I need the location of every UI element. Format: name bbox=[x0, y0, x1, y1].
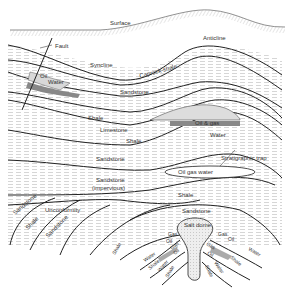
label-gas-r: Gas bbox=[218, 231, 228, 237]
label-oil-r2: Oil bbox=[207, 250, 215, 258]
label-surface: Surface bbox=[110, 20, 131, 26]
label-anticline: Anticline bbox=[203, 35, 226, 41]
label-shale-r2: Shale bbox=[204, 264, 215, 278]
geological-cross-section: Surface bbox=[0, 0, 286, 289]
label-water: Water bbox=[48, 79, 64, 85]
label-sandstone-upper: Sandstone bbox=[120, 89, 149, 95]
label-stratigraphic-trap: Stratigraphic trap bbox=[221, 155, 267, 161]
label-water-2: Water bbox=[210, 132, 226, 138]
label-oil-gas: Oil & gas bbox=[195, 120, 219, 126]
label-sandstone-dome: Sandstone bbox=[182, 208, 211, 214]
label-fault: Fault bbox=[55, 43, 69, 49]
surface-layer: Surface bbox=[10, 10, 285, 36]
label-gas-l: Gas bbox=[168, 231, 178, 237]
label-unconformity: Unconformity bbox=[45, 207, 80, 213]
label-oil-gas-water: Oil gas water bbox=[178, 169, 213, 175]
label-oil-r: Oil bbox=[228, 236, 234, 242]
label-sandstone-mid: Sandstone bbox=[96, 156, 125, 162]
label-shale-1: Shale bbox=[88, 115, 104, 121]
label-shale-2: Shale bbox=[126, 138, 142, 144]
label-oil: Oil bbox=[40, 73, 47, 79]
label-water-r: Water bbox=[248, 246, 263, 258]
label-salt-dome: Salt dome bbox=[184, 222, 212, 228]
label-syncline: Syncline bbox=[90, 62, 113, 68]
label-shale-3: Shale bbox=[178, 192, 194, 198]
label-limestone: Limestone bbox=[100, 127, 128, 133]
label-sandstone-impervious: Sandstone bbox=[96, 177, 125, 183]
label-impervious: (impervious) bbox=[92, 185, 125, 191]
label-water-r2: Water bbox=[213, 260, 226, 274]
